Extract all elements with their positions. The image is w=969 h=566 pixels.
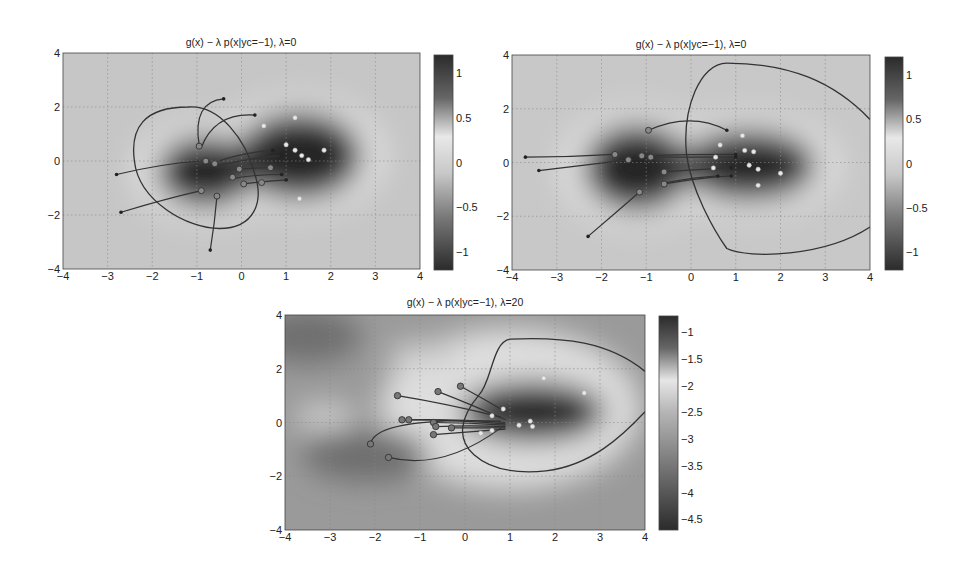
y-tick-label: 0 — [276, 417, 285, 429]
colorbar-tick-label: −4.5 — [678, 513, 703, 525]
y-tick-label: −4 — [47, 263, 63, 275]
colorbar-tick-label: 0.5 — [903, 113, 921, 125]
x-tick-label: 2 — [777, 271, 783, 283]
colorbar-tick-label: 0 — [903, 158, 912, 170]
colorbar-tick-label: −2.5 — [678, 406, 703, 418]
y-tick-label: 2 — [503, 103, 512, 115]
x-tick-label: 4 — [867, 271, 873, 283]
colorbar-tick-label: −1.5 — [678, 353, 703, 365]
panel-1-heatmap — [63, 53, 420, 269]
colorbar-tick-label: 1 — [903, 69, 912, 81]
panel-3-colorbar — [659, 316, 678, 530]
colorbar-tick-label: 0.5 — [453, 112, 471, 124]
y-tick-label: 4 — [276, 309, 285, 321]
colorbar-tick-label: −0.5 — [453, 201, 478, 213]
x-tick-label: 1 — [283, 270, 289, 282]
x-tick-label: 4 — [642, 531, 648, 543]
colorbar-tick-label: 0 — [453, 157, 462, 169]
y-tick-label: 4 — [54, 47, 63, 59]
y-tick-label: 2 — [54, 101, 63, 113]
panel-3-heatmap — [285, 315, 645, 530]
x-tick-label: 3 — [597, 531, 603, 543]
panel-1-title: g(x) − λ p(x|yc=−1), λ=0 — [186, 36, 297, 48]
x-tick-label: 1 — [733, 271, 739, 283]
colorbar-tick-label: −1 — [453, 246, 469, 258]
panel-1-colorbar — [434, 55, 453, 270]
x-tick-label: 3 — [822, 271, 828, 283]
y-tick-label: 0 — [503, 157, 512, 169]
y-tick-label: 4 — [503, 49, 512, 61]
colorbar-tick-label: −1 — [903, 246, 919, 258]
x-tick-label: 4 — [417, 270, 423, 282]
y-tick-label: −2 — [496, 210, 512, 222]
colorbar-tick-label: −2 — [678, 380, 694, 392]
x-tick-label: −1 — [640, 271, 653, 283]
y-tick-label: −4 — [269, 524, 285, 536]
panel-3-title: g(x) − λ p(x|yc=−1), λ=20 — [407, 296, 524, 308]
colorbar-tick-label: −3 — [678, 433, 694, 445]
colorbar-tick-label: −3.5 — [678, 460, 703, 472]
y-tick-label: −2 — [269, 470, 285, 482]
x-tick-label: −2 — [595, 271, 608, 283]
x-tick-label: −3 — [101, 270, 114, 282]
x-tick-label: 0 — [238, 270, 244, 282]
x-tick-label: −3 — [550, 271, 563, 283]
x-tick-label: 1 — [507, 531, 513, 543]
x-tick-label: 2 — [552, 531, 558, 543]
x-tick-label: 0 — [688, 271, 694, 283]
y-tick-label: −2 — [47, 209, 63, 221]
x-tick-label: 3 — [372, 270, 378, 282]
x-tick-label: 2 — [328, 270, 334, 282]
x-tick-label: −2 — [369, 531, 382, 543]
x-tick-label: 0 — [462, 531, 468, 543]
colorbar-tick-label: −1 — [678, 326, 694, 338]
x-tick-label: −1 — [414, 531, 427, 543]
panel-2-colorbar — [885, 57, 903, 270]
x-tick-label: −2 — [146, 270, 159, 282]
colorbar-tick-label: −4 — [678, 487, 694, 499]
y-tick-label: −4 — [496, 264, 512, 276]
panel-2-title: g(x) − λ p(x|yc=−1), λ=0 — [636, 38, 747, 50]
panel-2-heatmap — [512, 55, 870, 270]
colorbar-tick-label: 1 — [453, 67, 462, 79]
colorbar-tick-label: −0.5 — [903, 202, 928, 214]
x-tick-label: −1 — [191, 270, 204, 282]
x-tick-label: −3 — [324, 531, 337, 543]
y-tick-label: 2 — [276, 363, 285, 375]
y-tick-label: 0 — [54, 155, 63, 167]
